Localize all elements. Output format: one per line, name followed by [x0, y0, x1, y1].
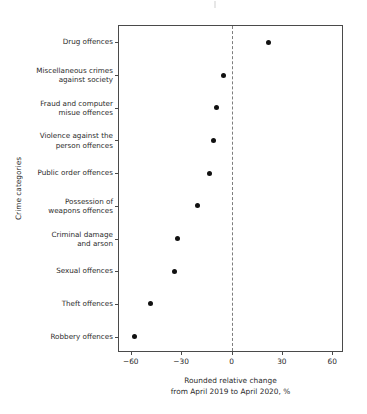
y-tick-mark	[115, 75, 119, 76]
x-axis-title: Rounded relative change from April 2019 …	[118, 376, 343, 397]
y-tick-mark	[115, 239, 119, 240]
zero-reference-line	[232, 26, 233, 351]
y-tick-mark	[115, 140, 119, 141]
y-tick-label: Drug offences	[9, 38, 113, 47]
x-tick-mark	[181, 351, 182, 355]
y-tick-label: Theft offences	[9, 299, 113, 308]
chart-figure: Crime categories Drug offencesMiscellane…	[0, 0, 367, 414]
data-point	[214, 105, 219, 110]
y-tick-mark	[115, 173, 119, 174]
y-tick-mark	[115, 206, 119, 207]
x-tick-label: 0	[229, 357, 234, 366]
scan-artifact	[214, 1, 216, 8]
y-tick-label: Miscellaneous crimes against society	[9, 66, 113, 85]
data-point	[266, 40, 271, 45]
x-tick-label: 60	[328, 357, 337, 366]
y-tick-label: Violence against the person offences	[9, 131, 113, 150]
y-tick-mark	[115, 42, 119, 43]
y-tick-label: Robbery offences	[9, 332, 113, 341]
x-tick-label: −60	[123, 357, 139, 366]
y-tick-label: Sexual offences	[9, 267, 113, 276]
x-tick-label: −30	[173, 357, 189, 366]
y-tick-label: Fraud and computer misue offences	[9, 98, 113, 117]
data-point	[175, 236, 180, 241]
y-tick-label: Public order offences	[9, 168, 113, 177]
data-point	[132, 334, 137, 339]
y-tick-mark	[115, 271, 119, 272]
x-tick-label: 30	[277, 357, 286, 366]
data-point	[172, 269, 177, 274]
plot-area: Drug offencesMiscellaneous crimes agains…	[118, 25, 343, 352]
y-tick-mark	[115, 337, 119, 338]
y-tick-label: Possession of weapons offences	[9, 196, 113, 215]
x-tick-mark	[232, 351, 233, 355]
y-tick-label: Criminal damage and arson	[9, 229, 113, 248]
data-point	[211, 138, 216, 143]
x-tick-mark	[282, 351, 283, 355]
data-point	[148, 301, 153, 306]
x-tick-mark	[332, 351, 333, 355]
x-tick-mark	[131, 351, 132, 355]
data-point	[221, 73, 226, 78]
data-point	[207, 171, 212, 176]
data-point	[195, 203, 200, 208]
y-tick-mark	[115, 304, 119, 305]
y-tick-mark	[115, 108, 119, 109]
